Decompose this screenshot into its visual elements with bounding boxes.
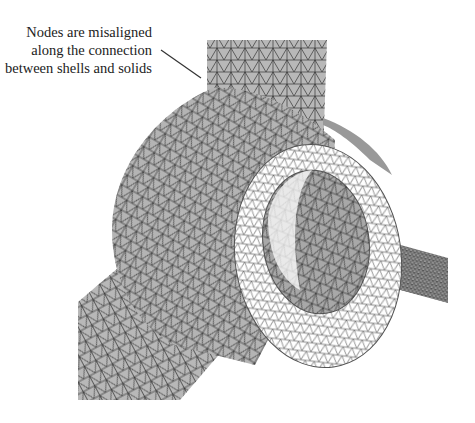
annotation-line-1: Nodes are misaligned — [5, 23, 152, 41]
mesh-figure: Nodes are misaligned along the connectio… — [0, 0, 475, 423]
annotation-line-3: between shells and solids — [5, 59, 152, 77]
annotation-line-2: along the connection — [5, 41, 152, 59]
annotation-leader-line — [161, 50, 201, 78]
annotation-callout: Nodes are misaligned along the connectio… — [5, 23, 152, 77]
